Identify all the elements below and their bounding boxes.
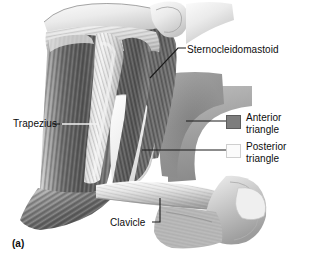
label-clavicle: Clavicle — [110, 217, 145, 229]
legend-label-posterior-line1: Posterior — [246, 141, 286, 152]
lower-torso-fibers — [154, 206, 222, 248]
legend-swatch-anterior-triangle — [226, 115, 241, 129]
label-trapezius: Trapezius — [13, 118, 57, 130]
legend-label-anterior-triangle: Anteriortriangle — [246, 112, 308, 135]
label-sternocleidomastoid: Sternocleidomastoid — [187, 44, 279, 56]
legend-label-posterior-line2: triangle — [246, 153, 279, 164]
anatomy-figure: Sternocleidomastoid Trapezius Clavicle A… — [0, 0, 310, 264]
figure-caption: (a) — [12, 238, 24, 249]
legend-swatch-posterior-triangle — [226, 144, 241, 158]
legend-label-anterior-line1: Anterior — [246, 112, 281, 123]
legend-label-anterior-line2: triangle — [246, 124, 279, 135]
legend-label-posterior-triangle: Posteriortriangle — [246, 141, 308, 164]
